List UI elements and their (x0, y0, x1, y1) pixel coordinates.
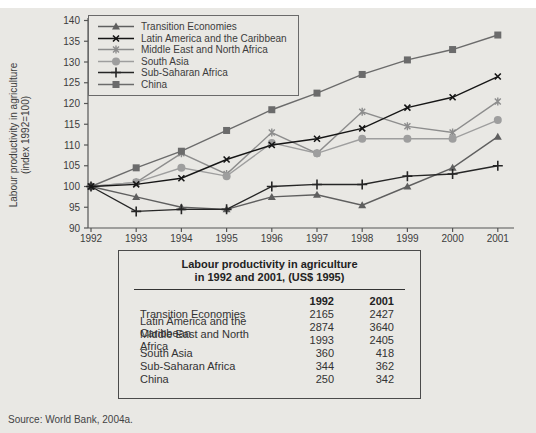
y-tick-label: 115 (64, 119, 80, 130)
table-row-sub-saharan-africa: Sub-Saharan Africa344362 (119, 359, 420, 372)
y-axis-title: Labour productivity in agriculture (inde… (8, 30, 38, 240)
legend-item-latin-america-and-the-caribbean: Latin America and the Caribbean (96, 33, 298, 45)
legend-item-china: China (96, 79, 298, 91)
legend-label: Transition Economies (141, 21, 237, 32)
cropped-page-margin (0, 0, 536, 8)
legend-label: South Asia (141, 56, 189, 67)
x-tick-label: 1999 (396, 233, 419, 244)
legend-item-south-asia: South Asia (96, 56, 298, 68)
figure-container: 9095100105110115120125130135140199219931… (0, 0, 536, 433)
row-label: Sub-Saharan Africa (119, 360, 274, 372)
row-label: South Asia (119, 347, 274, 359)
square-marker-icon (96, 79, 136, 90)
table-title: Labour productivity in agriculture in 19… (119, 258, 420, 284)
row-value: 2874 (274, 321, 334, 333)
row-value: 360 (274, 347, 334, 359)
table-row-middle-east-and-north-africa: Middle East and North Africa19932405 (119, 333, 420, 346)
series-transition-economies (87, 133, 502, 213)
x-tick-label: 2000 (441, 233, 464, 244)
x-tick-label: 1993 (125, 233, 148, 244)
y-tick-label: 140 (63, 15, 80, 26)
y-tick-label: 120 (63, 98, 80, 109)
x-tick-label: 1994 (170, 233, 193, 244)
legend-item-sub-saharan-africa: Sub-Saharan Africa (96, 67, 298, 79)
x-tick-label: 2001 (487, 233, 510, 244)
row-value: 2165 (274, 308, 334, 320)
table-row-china: China250342 (119, 372, 420, 385)
series-middle-east-and-north-africa (88, 97, 501, 190)
plus-marker-icon (96, 67, 136, 78)
table-header-row: 1992 2001 (119, 294, 420, 307)
row-value: 2427 (334, 308, 394, 320)
y-tick-label: 100 (63, 181, 80, 192)
table-body: Transition Economies21652427Latin Americ… (119, 307, 420, 385)
x-tick-label: 1996 (261, 233, 284, 244)
row-value: 418 (334, 347, 394, 359)
row-value: 342 (334, 373, 394, 385)
y-tick-label: 135 (63, 36, 80, 47)
circle-marker-icon (96, 56, 136, 67)
chart-legend: Transition EconomiesLatin America and th… (88, 15, 299, 96)
row-value: 362 (334, 360, 394, 372)
y-tick-label: 125 (63, 77, 80, 88)
table-row-south-asia: South Asia360418 (119, 346, 420, 359)
y-tick-label: 95 (69, 202, 81, 213)
row-value: 3640 (334, 321, 394, 333)
productivity-table: Labour productivity in agriculture in 19… (118, 250, 421, 399)
table-header-1992: 1992 (274, 295, 334, 307)
asterisk-marker-icon (96, 44, 136, 55)
legend-item-middle-east-and-north-africa: Middle East and North Africa (96, 44, 298, 56)
y-tick-label: 110 (64, 140, 80, 151)
legend-item-transition-economies: Transition Economies (96, 21, 298, 33)
x-marker-icon (96, 33, 136, 44)
x-tick-label: 1997 (306, 233, 329, 244)
triangle-marker-icon (96, 21, 136, 32)
row-value: 1993 (274, 334, 334, 346)
row-value: 2405 (334, 334, 394, 346)
legend-label: China (141, 79, 167, 90)
x-tick-label: 1995 (215, 233, 238, 244)
table-title-line2: in 1992 and 2001, (US$ 1995) (119, 271, 420, 284)
legend-label: Middle East and North Africa (141, 44, 268, 55)
row-value: 344 (274, 360, 334, 372)
series-south-asia (87, 116, 502, 190)
table-title-line1: Labour productivity in agriculture (119, 258, 420, 271)
row-label: China (119, 373, 274, 385)
x-tick-label: 1998 (351, 233, 374, 244)
table-header-2001: 2001 (334, 295, 394, 307)
row-value: 250 (274, 373, 334, 385)
series-sub-saharan-africa (86, 161, 503, 217)
y-axis-title-line2: (index 1992=100) (20, 30, 32, 240)
y-tick-label: 90 (69, 223, 81, 234)
x-tick-label: 1992 (80, 233, 103, 244)
y-tick-label: 130 (63, 57, 80, 68)
source-note: Source: World Bank, 2004a. (8, 414, 133, 425)
y-tick-label: 105 (63, 160, 80, 171)
y-axis-title-line1: Labour productivity in agriculture (8, 30, 20, 240)
legend-label: Latin America and the Caribbean (141, 33, 287, 44)
table-rule (134, 289, 405, 290)
figure-background: 9095100105110115120125130135140199219931… (0, 8, 536, 433)
legend-label: Sub-Saharan Africa (141, 67, 228, 78)
